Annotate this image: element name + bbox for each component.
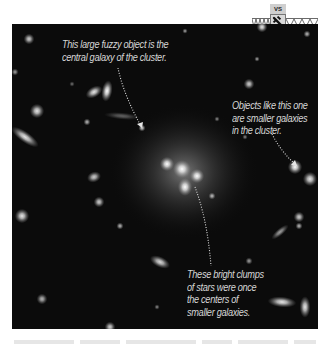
caption-smaller-galaxies: Objects like this one are smaller galaxi… <box>232 100 308 138</box>
galaxy-object <box>30 104 44 118</box>
caption-bright-clumps: These bright clumps of stars were once t… <box>187 269 264 319</box>
galaxy-object <box>303 30 310 37</box>
sky-canvas <box>12 24 318 329</box>
badge-label: VS <box>270 4 286 14</box>
caption-line: in the cluster. <box>232 125 308 138</box>
arrow-smaller-galaxy <box>272 134 295 164</box>
galaxy-object <box>154 304 159 309</box>
caption-line: are smaller galaxies <box>232 113 308 126</box>
galaxy-object <box>208 192 215 199</box>
galaxy-object <box>12 123 41 150</box>
galaxy-object <box>160 157 174 171</box>
galaxy-object <box>104 111 140 121</box>
galaxy-object <box>257 24 268 32</box>
caption-line: These bright clumps <box>187 269 264 282</box>
caption-central-galaxy: This large fuzzy object is the central g… <box>62 39 168 64</box>
caption-line: of stars were once <box>187 282 264 295</box>
caption-line: the centers of <box>187 294 264 307</box>
galaxy-object <box>295 222 302 229</box>
galaxy-object <box>245 257 252 264</box>
galaxy-object <box>148 253 172 272</box>
galaxy-object <box>303 172 317 186</box>
galaxy-object <box>214 116 219 121</box>
galaxy-object <box>173 160 191 178</box>
galaxy-object <box>94 197 105 208</box>
caption-line: This large fuzzy object is the <box>62 39 168 52</box>
caption-line: smaller galaxies. <box>187 307 264 320</box>
galaxy-object <box>84 83 105 101</box>
galaxy-object <box>100 79 114 102</box>
caption-line: central galaxy of the cluster. <box>62 52 168 65</box>
galaxy-object <box>12 68 19 75</box>
galaxy-object <box>37 294 48 305</box>
galaxy-object <box>105 322 116 329</box>
galaxy-cluster-image: This large fuzzy object is the central g… <box>12 24 318 329</box>
galaxy-object <box>178 178 192 196</box>
galaxy-object <box>244 79 255 90</box>
galaxy-object <box>294 212 305 223</box>
galaxy-object <box>300 296 311 318</box>
galaxy-object <box>269 222 290 241</box>
galaxy-object <box>24 34 35 45</box>
galaxy-object <box>116 222 123 229</box>
galaxy-object <box>69 81 74 86</box>
galaxy-object <box>15 209 29 223</box>
galaxy-object <box>182 28 187 33</box>
galaxy-object <box>267 295 297 308</box>
galaxy-object <box>83 118 90 125</box>
galaxy-object <box>85 169 102 184</box>
cut-off-text-line <box>14 338 316 344</box>
caption-line: Objects like this one <box>232 100 308 113</box>
galaxy-object <box>254 56 259 61</box>
galaxy-object <box>190 169 204 183</box>
